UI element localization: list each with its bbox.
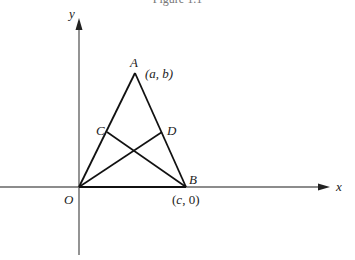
point-B-label: B (189, 173, 197, 186)
y-axis-arrow-icon (76, 18, 83, 30)
segment-OD (79, 132, 162, 187)
point-A-coords: (a, b) (145, 67, 173, 80)
y-axis-label: y (69, 7, 75, 20)
x-axis-arrow-icon (318, 184, 330, 191)
segment-OA (79, 73, 135, 187)
point-A-label: A (130, 56, 138, 69)
point-C-label: C (96, 124, 105, 137)
origin-label: O (64, 193, 73, 206)
x-axis-label: x (336, 180, 342, 193)
point-D-label: D (167, 124, 176, 137)
geometry-diagram (0, 0, 355, 260)
point-B-coords: (c, 0) (172, 193, 199, 206)
